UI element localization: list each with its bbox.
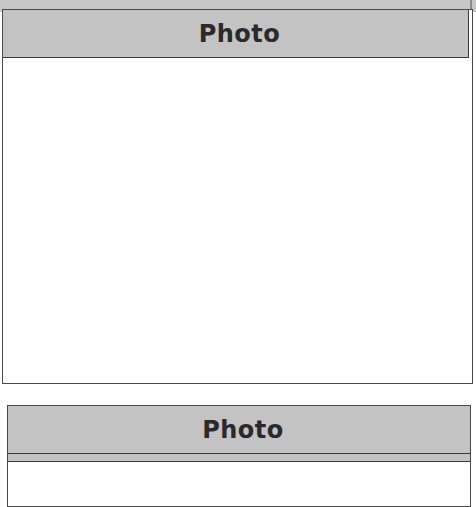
photo-box-1-header: Photo: [3, 10, 469, 58]
photo-box-2-header: Photo: [8, 406, 470, 462]
photo-box-2-title-row: Photo: [8, 406, 470, 454]
photo-box-1-title: Photo: [191, 20, 281, 48]
photo-box-2: Photo: [7, 405, 471, 507]
photo-box-2-title: Photo: [194, 416, 284, 444]
photo-box-2-divider: [8, 461, 470, 462]
photo-box-1: Photo: [2, 9, 473, 384]
